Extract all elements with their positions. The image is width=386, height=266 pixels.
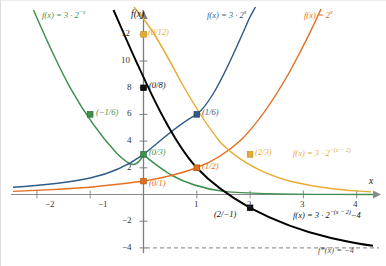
y-tick-4: 4 (127, 136, 132, 145)
y-tick-12: 12 (121, 29, 130, 38)
curve-label-black-base: f(x) = 3 · 2 (293, 210, 330, 220)
point-label-2-3: (2/3) (255, 148, 272, 157)
y-tick-minus4: −4 (122, 243, 132, 252)
exponential-functions-graph: f(x) x 12 10 8 6 4 2 −2 −4 −2 −1 1 2 3 4… (0, 0, 386, 266)
curve-label-black: f(x) = 3 · 2−(x − 2)−4 (293, 211, 361, 220)
curve-label-blue: f(x) = 3 · 2x (207, 11, 246, 20)
point-label-1-6: (1/6) (202, 108, 219, 117)
y-axis (139, 10, 147, 253)
curve-label-yellow: f(x) = 3 · 2−(x − 2) (293, 149, 351, 158)
y-tick-10: 10 (121, 56, 130, 65)
y-tick-8: 8 (127, 83, 132, 92)
x-tick-minus1: −1 (98, 200, 108, 209)
point-label-minus1-6: (−1/6) (96, 108, 118, 117)
curve-blue-3x2x (13, 7, 256, 187)
curve-label-yellow-base: f(x) = 3 · 2 (293, 148, 330, 158)
point-label-0-1: (0/1) (149, 179, 166, 188)
plot-canvas (1, 1, 386, 266)
point-label-0-12: (0/12) (148, 28, 169, 37)
x-tick-2: 2 (247, 200, 252, 209)
x-tick-4: 4 (353, 200, 358, 209)
curve-label-blue-base: f(x) = 3 · 2 (207, 10, 244, 20)
curve-yellow-3x2neg-x-2 (134, 7, 371, 192)
data-point-markers (87, 32, 253, 211)
point-label-2-minus1: (2/−1) (214, 210, 236, 219)
curve-label-blue-exponent: x (244, 9, 247, 15)
curve-label-green-base: f(x) = 3 · 2 (42, 10, 79, 20)
curve-label-orange: f(x) = 2x (304, 11, 333, 20)
point-label-0-8: (0/8) (149, 81, 166, 90)
curve-label-black-suffix: −4 (351, 210, 361, 220)
x-axis-title: x (369, 177, 373, 187)
curve-label-yellow-exponent: −(x − 2) (330, 147, 351, 153)
curve-label-black-exponent: −(x − 2) (330, 209, 351, 215)
x-tick-1: 1 (194, 200, 199, 209)
curve-label-orange-base: f(x) = 2 (304, 10, 330, 20)
asymptote-label: f*(x) = −4 (318, 246, 354, 255)
curve-label-orange-exponent: x (330, 9, 333, 15)
curve-label-green-exponent: −x (79, 9, 86, 15)
point-label-1-2: (1/2) (202, 162, 219, 171)
y-tick-6: 6 (127, 109, 132, 118)
x-tick-3: 3 (300, 200, 305, 209)
point-label-0-3: (0/3) (149, 148, 166, 157)
y-tick-2: 2 (127, 163, 132, 172)
y-tick-minus2: −2 (122, 216, 132, 225)
x-tick-minus2: −2 (45, 200, 55, 209)
curve-label-green: f(x) = 3 · 2−x (42, 11, 86, 20)
y-axis-title: f(x) (131, 10, 144, 20)
